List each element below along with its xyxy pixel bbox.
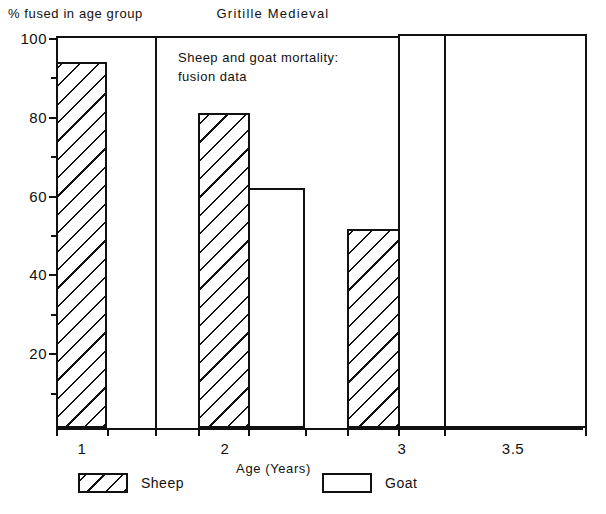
x-tick-label-3: 3 bbox=[398, 440, 407, 457]
x-tick-2 bbox=[155, 428, 157, 436]
y-tick-label-40: 40 bbox=[29, 266, 47, 283]
bar-goat-age-2 bbox=[248, 188, 305, 428]
legend-label-goat: Goat bbox=[385, 475, 417, 491]
legend-swatch-goat-icon bbox=[322, 473, 372, 493]
x-tick-label-3-5: 3.5 bbox=[502, 440, 524, 457]
legend-swatch-sheep-icon bbox=[78, 473, 128, 493]
bar-sheep-age-3 bbox=[347, 229, 400, 428]
x-tick-1 bbox=[107, 428, 109, 436]
chart-subtitle: Sheep and goat mortality: fusion data bbox=[178, 48, 339, 86]
x-tick-5 bbox=[305, 428, 307, 436]
y-tick-label-20: 20 bbox=[29, 345, 47, 362]
y-tick-label-80: 80 bbox=[29, 108, 47, 125]
legend-item-sheep: Sheep bbox=[78, 473, 184, 493]
chart-root: % fused in age group Gritille Medieval S… bbox=[0, 0, 606, 514]
legend: Sheep Goat bbox=[0, 473, 606, 503]
y-tick-100 bbox=[49, 38, 58, 40]
x-tick-0 bbox=[56, 428, 58, 436]
legend-label-sheep: Sheep bbox=[141, 475, 184, 491]
bar-sheep-age-1 bbox=[56, 62, 107, 428]
x-tick-3 bbox=[198, 428, 200, 436]
group-divider-2 bbox=[398, 38, 400, 428]
x-tick-4 bbox=[248, 428, 250, 436]
x-tick-7 bbox=[398, 428, 400, 436]
bar-goat-age-3-5 bbox=[444, 34, 587, 428]
legend-item-goat: Goat bbox=[322, 473, 417, 493]
group-divider-1 bbox=[155, 38, 157, 428]
y-tick-label-100: 100 bbox=[20, 30, 47, 47]
chart-title: Gritille Medieval bbox=[0, 6, 606, 21]
plot-area: Sheep and goat mortality: fusion data 10… bbox=[56, 36, 583, 430]
bar-goat-age-3 bbox=[398, 34, 446, 428]
x-tick-label-2: 2 bbox=[221, 440, 230, 457]
bar-sheep-age-2 bbox=[198, 113, 250, 428]
x-tick-9 bbox=[585, 428, 587, 436]
y-tick-label-60: 60 bbox=[29, 187, 47, 204]
x-tick-6 bbox=[347, 428, 349, 436]
x-tick-8 bbox=[444, 428, 446, 436]
x-tick-label-1: 1 bbox=[78, 440, 87, 457]
